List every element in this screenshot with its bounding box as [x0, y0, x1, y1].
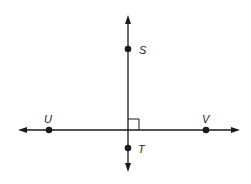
arrow-up-icon	[125, 15, 131, 24]
point-label: U	[44, 113, 52, 125]
point-dot	[125, 145, 132, 152]
right-angle-marker	[128, 119, 139, 130]
point-label: T	[138, 143, 146, 155]
point-dot	[46, 127, 53, 134]
arrow-down-icon	[125, 163, 131, 172]
point-label: S	[139, 44, 147, 56]
perpendicular-lines-diagram: STUV	[0, 0, 251, 184]
point-label: V	[202, 113, 211, 125]
arrow-left-icon	[18, 127, 27, 133]
point-dot	[203, 127, 210, 134]
point-dot	[125, 46, 132, 53]
arrow-right-icon	[231, 127, 240, 133]
